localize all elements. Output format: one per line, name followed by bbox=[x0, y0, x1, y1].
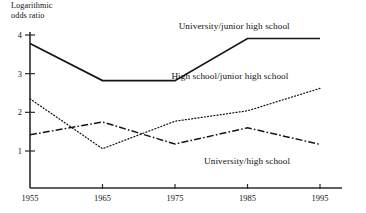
chart-plot-area bbox=[0, 0, 366, 213]
y-axis-tick-label: 1 bbox=[18, 147, 22, 156]
x-axis-tick-label: 1965 bbox=[94, 194, 111, 203]
series-label-1: High school/junior high school bbox=[171, 71, 288, 81]
series-label-0: University/junior high school bbox=[179, 21, 290, 31]
x-axis-tick-label: 1995 bbox=[311, 194, 328, 203]
x-axis-tick-label: 1975 bbox=[166, 194, 183, 203]
y-axis-tick-label: 4 bbox=[18, 31, 22, 40]
x-axis-tick-label: 1985 bbox=[239, 194, 256, 203]
chart-figure: Logarithmic odds ratio 1234 195519651975… bbox=[0, 0, 366, 213]
series-lines bbox=[30, 38, 320, 148]
x-axis-tick-label: 1955 bbox=[21, 194, 38, 203]
y-axis-tick-label: 2 bbox=[18, 108, 22, 117]
series-line-1 bbox=[30, 88, 320, 148]
y-axis-tick-label: 3 bbox=[18, 69, 22, 78]
series-label-2: University/high school bbox=[204, 156, 290, 166]
axis-lines bbox=[30, 32, 342, 188]
series-line-2 bbox=[30, 122, 320, 144]
